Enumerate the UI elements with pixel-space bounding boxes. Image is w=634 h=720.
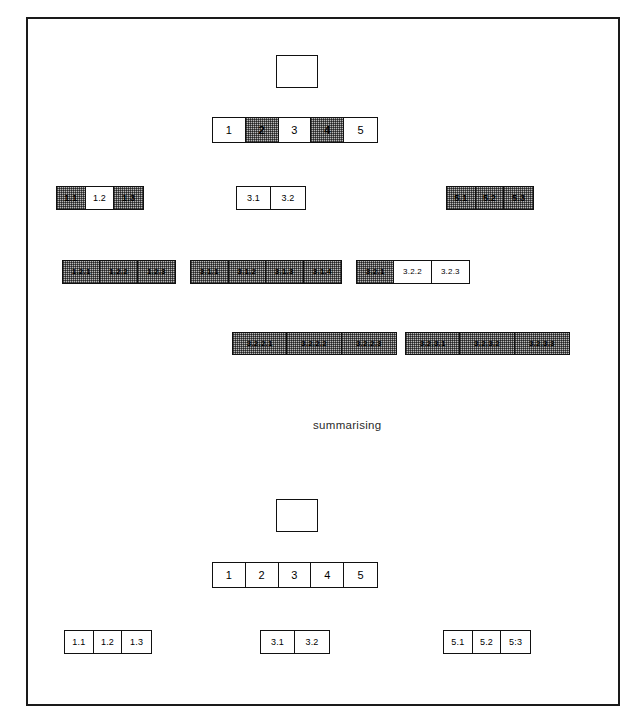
cell-4-bottom[interactable]: 4 (311, 563, 344, 587)
level3-group-12-top: 1.2.1 1.2.2 1.2.3 (62, 260, 176, 284)
level2-group-5-top: 5.1 5.2 5.3 (446, 186, 534, 210)
cell-3-1-3[interactable]: 3.1.3 (266, 261, 304, 283)
level2-group-5-bottom: 5.1 5.2 5:3 (443, 630, 531, 654)
cell-5-bottom[interactable]: 5 (344, 563, 377, 587)
cell-1-2-bottom[interactable]: 1.2 (94, 631, 123, 653)
level4-group-323-top: 3.2.3.1 3.2.3.2 3.2.3.3 (405, 332, 570, 355)
cell-3-1[interactable]: 3.1 (237, 187, 271, 209)
level2-group-3-bottom: 3.1 3.2 (260, 630, 330, 654)
cell-3-2-3-3[interactable]: 3.2.3.3 (515, 333, 569, 354)
cell-1-2-3[interactable]: 1.2.3 (138, 261, 175, 283)
cell-3-2-1[interactable]: 3.2.1 (357, 261, 394, 283)
cell-2-bottom[interactable]: 2 (246, 563, 279, 587)
cell-5-2[interactable]: 5.2 (476, 187, 505, 209)
cell-5-3[interactable]: 5.3 (504, 187, 533, 209)
cell-1-3[interactable]: 1.3 (114, 187, 143, 209)
cell-3-1-1[interactable]: 3.1.1 (191, 261, 229, 283)
cell-3-2-3-1[interactable]: 3.2.3.1 (406, 333, 460, 354)
cell-1-3-bottom[interactable]: 1.3 (122, 631, 151, 653)
level3-group-31-top: 3.1.1 3.1.2 3.1.3 3.1.4 (190, 260, 342, 284)
cell-3-2[interactable]: 3.2 (271, 187, 305, 209)
cell-3-1-bottom[interactable]: 3.1 (261, 631, 295, 653)
cell-4[interactable]: 4 (311, 118, 344, 142)
root-box-top (276, 55, 318, 88)
cell-5[interactable]: 5 (344, 118, 377, 142)
summarising-label: summarising (313, 419, 381, 431)
cell-5-1-bottom[interactable]: 5.1 (444, 631, 473, 653)
cell-3-1-2[interactable]: 3.1.2 (229, 261, 267, 283)
level1-row-bottom: 1 2 3 4 5 (212, 562, 378, 588)
level1-row-top: 1 2 3 4 5 (212, 117, 378, 143)
cell-1-bottom[interactable]: 1 (213, 563, 246, 587)
level3-group-32-top: 3.2.1 3.2.2 3.2.3 (356, 260, 470, 284)
cell-1[interactable]: 1 (213, 118, 246, 142)
cell-5-1[interactable]: 5.1 (447, 187, 476, 209)
cell-1-1-bottom[interactable]: 1.1 (65, 631, 94, 653)
cell-1-2[interactable]: 1.2 (86, 187, 115, 209)
cell-3-2-2-3[interactable]: 3.2.2.3 (342, 333, 396, 354)
cell-3-bottom[interactable]: 3 (279, 563, 312, 587)
cell-3-1-4[interactable]: 3.1.4 (304, 261, 341, 283)
cell-1-2-2[interactable]: 1.2.2 (100, 261, 137, 283)
cell-3-2-3[interactable]: 3.2.3 (432, 261, 469, 283)
cell-1-1[interactable]: 1.1 (57, 187, 86, 209)
cell-5-3-bottom[interactable]: 5:3 (501, 631, 530, 653)
cell-1-2-1[interactable]: 1.2.1 (63, 261, 100, 283)
cell-5-2-bottom[interactable]: 5.2 (473, 631, 502, 653)
level2-group-1-top: 1.1 1.2 1.3 (56, 186, 144, 210)
cell-3-2-3-2[interactable]: 3.2.3.2 (460, 333, 514, 354)
level2-group-1-bottom: 1.1 1.2 1.3 (64, 630, 152, 654)
level4-group-322-top: 3.2.2.1 3.2.2.2 3.2.2.3 (232, 332, 397, 355)
level2-group-3-top: 3.1 3.2 (236, 186, 306, 210)
cell-2[interactable]: 2 (246, 118, 279, 142)
root-box-bottom (276, 499, 318, 532)
cell-3[interactable]: 3 (279, 118, 312, 142)
cell-3-2-2-1[interactable]: 3.2.2.1 (233, 333, 287, 354)
cell-3-2-2[interactable]: 3.2.2 (394, 261, 431, 283)
cell-3-2-2-2[interactable]: 3.2.2.2 (287, 333, 341, 354)
cell-3-2-bottom[interactable]: 3.2 (295, 631, 329, 653)
